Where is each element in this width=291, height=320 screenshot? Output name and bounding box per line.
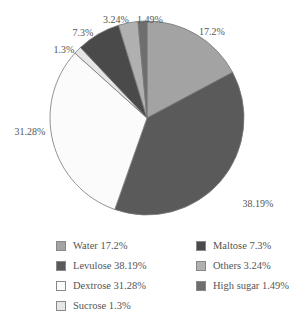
legend: Water 17.2% Levulose 38.19% Dextrose 31.… (0, 234, 291, 320)
legend-label-others: Others 3.24% (213, 260, 271, 271)
legend-label-water: Water 17.2% (73, 240, 128, 251)
legend-swatch-water (56, 241, 66, 251)
legend-swatch-levulose (56, 261, 66, 271)
legend-swatch-dextrose (56, 281, 66, 291)
legend-label-sucrose: Sucrose 1.3% (73, 300, 131, 311)
legend-item-others: Others 3.24% (196, 260, 271, 271)
pie-slices (50, 21, 244, 215)
slice-label-levulose: 38.19% (243, 198, 274, 209)
slice-label-water: 17.2% (199, 26, 225, 37)
slice-label-high-sugar: 1.49% (137, 14, 163, 25)
legend-item-water: Water 17.2% (56, 240, 128, 251)
legend-label-maltose: Maltose 7.3% (213, 240, 271, 251)
legend-label-high-sugar: High sugar 1.49% (213, 280, 289, 291)
legend-item-sucrose: Sucrose 1.3% (56, 300, 131, 311)
legend-item-high-sugar: High sugar 1.49% (196, 280, 289, 291)
legend-item-dextrose: Dextrose 31.28% (56, 280, 146, 291)
legend-swatch-sucrose (56, 301, 66, 311)
pie-chart: 17.2%38.19%31.28%1.3%7.3%3.24%1.49% (0, 0, 291, 234)
slice-label-dextrose: 31.28% (15, 126, 46, 137)
slice-label-sucrose: 1.3% (54, 44, 75, 55)
slice-label-others: 3.24% (103, 14, 129, 25)
legend-item-maltose: Maltose 7.3% (196, 240, 271, 251)
legend-label-levulose: Levulose 38.19% (73, 260, 147, 271)
slice-label-maltose: 7.3% (73, 27, 94, 38)
legend-label-dextrose: Dextrose 31.28% (73, 280, 146, 291)
legend-swatch-others (196, 261, 206, 271)
legend-swatch-maltose (196, 241, 206, 251)
legend-item-levulose: Levulose 38.19% (56, 260, 147, 271)
legend-swatch-high-sugar (196, 281, 206, 291)
